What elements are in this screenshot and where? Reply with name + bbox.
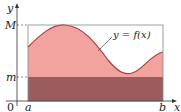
origin-label: 0 [7,101,14,112]
right-endpoint-label: b [159,101,166,112]
integral-bounds-diagram: y x M m 0 a b y = f(x) [0,0,181,112]
x-axis-label: x [174,101,181,112]
curve-label: y = f(x) [112,29,151,40]
y-axis-label: y [6,2,14,15]
lower-bound-rectangle [28,77,163,101]
lower-bound-label: m [6,71,16,84]
left-endpoint-label: a [25,101,32,112]
y-axis-arrow-icon [15,3,19,8]
curve-label-leader [98,37,112,51]
upper-bound-label: M [4,19,17,32]
